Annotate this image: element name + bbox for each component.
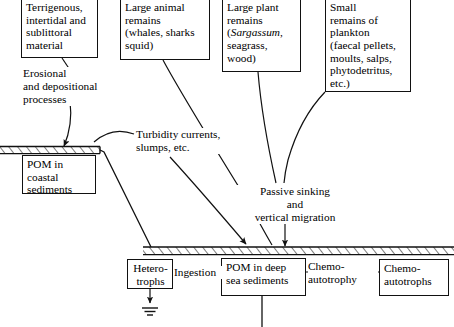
large-plant-genus-sargassum: Sargassum [231, 26, 280, 38]
connector-small-plankton-to-passive-sinking [284, 92, 325, 183]
diagram-canvas: Terrigenous, intertidal and sublittoral … [0, 0, 454, 327]
connector-shelf-to-turbidity-label [94, 131, 134, 142]
label-passive-sinking-vertical-migration: Passive sinking and vertical migration [234, 185, 356, 224]
coastal-shelf-band [0, 147, 100, 154]
box-large-plant-remains: Large plant remains (Sargassum, seagrass… [222, 0, 301, 72]
continental-slope-line [100, 150, 151, 247]
label-erosional-depositional-processes: Erosional and depositional processes [23, 67, 143, 106]
deep-seafloor-band [143, 247, 454, 255]
label-turbidity-currents: Turbidity currents, slumps, etc. [136, 128, 256, 154]
box-large-animal-remains: Large animal remains (whales, sharks squ… [120, 0, 210, 60]
box-small-plankton-remains: Small remains of plankton (faecal pellet… [325, 0, 411, 92]
remineralisation-ground-symbol [142, 308, 158, 315]
box-pom-coastal-sediments: POM in coastal sediments [22, 155, 96, 194]
label-chemoautotrophy: Chemo- autotrophy [308, 260, 378, 286]
box-chemoautotrophs: Chemo- autotrophs [379, 259, 449, 296]
connector-large-plant-to-passive-sinking [258, 72, 276, 183]
box-pom-deep-sea-sediments: POM in deep sea sediments [221, 258, 306, 296]
box-terrigenous-material: Terrigenous, intertidal and sublittoral … [21, 0, 98, 58]
label-ingestion: Ingestion [174, 266, 224, 279]
box-heterotrophs: Hetero- trophs [127, 259, 173, 289]
connector-erosional-to-pom-coastal [64, 101, 71, 146]
